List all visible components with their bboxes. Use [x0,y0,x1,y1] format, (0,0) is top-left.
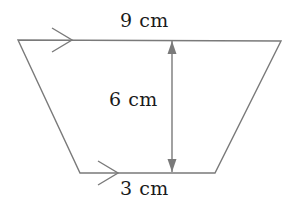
height-arrowhead-up-icon [168,41,177,54]
height-arrowhead-down-icon [168,159,177,172]
top-side-length-label: 9 cm [120,11,169,30]
height-length-label: 6 cm [109,90,158,109]
trapezoid-figure: 9 cm 6 cm 3 cm [0,0,286,208]
bottom-side-length-label: 3 cm [120,179,169,198]
